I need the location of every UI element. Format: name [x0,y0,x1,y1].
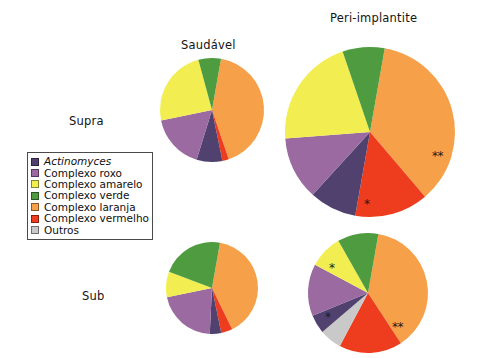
legend-item: Actinomyces [31,156,148,167]
pie-chart-saudavel-sub [160,236,264,340]
legend-swatch-icon [31,203,39,211]
legend-item-label: Complexo roxo [44,168,122,179]
pie-chart-peri-implantite-sub [302,227,434,358]
legend-item-label: Complexo laranja [44,202,136,213]
legend-swatch-icon [31,169,39,177]
pie-chart-peri-implantite-supra [279,41,461,223]
legend-swatch-icon [31,158,39,166]
legend-item-label: Complexo amarelo [44,179,142,190]
legend-item-label: Complexo vermelho [44,213,149,224]
legend-item-label: Complexo verde [44,190,129,201]
legend-swatch-icon [31,226,39,234]
legend-swatch-icon [31,192,39,200]
legend-item-label: Actinomyces [44,156,111,167]
pie-chart-figure: SaudávelPeri-implantiteSupraSub ******* … [0,0,478,358]
row-label: Supra [69,114,104,128]
chart-legend: ActinomycesComplexo roxoComplexo amarelo… [27,152,153,240]
legend-swatch-icon [31,215,39,223]
legend-item: Complexo vermelho [31,213,148,224]
legend-item: Outros [31,224,148,235]
column-label: Saudável [181,38,236,52]
legend-item: Complexo verde [31,190,148,201]
row-label: Sub [82,289,105,303]
pie-chart-saudavel-supra [154,52,270,168]
legend-item-label: Outros [44,225,79,236]
column-label: Peri-implantite [330,11,417,25]
legend-swatch-icon [31,180,39,188]
